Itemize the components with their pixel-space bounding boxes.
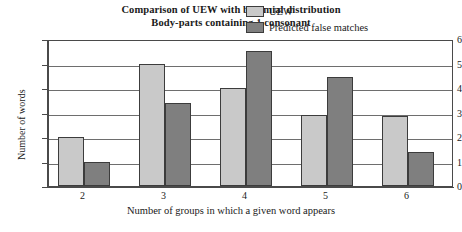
- legend-item-uew: UEW: [246, 4, 401, 19]
- bar: [220, 88, 246, 186]
- x-axis-tick-label: 6: [387, 190, 427, 202]
- bar: [58, 137, 84, 186]
- y-axis-title: Number of words: [16, 89, 27, 160]
- x-axis-tick-label: 5: [306, 190, 346, 202]
- bar: [84, 162, 110, 187]
- chart-legend: UEW Predicted false matches: [246, 4, 401, 36]
- x-axis-tick-label: 2: [63, 190, 103, 202]
- legend-swatch-icon-predicted: [246, 22, 264, 33]
- legend-item-predicted: Predicted false matches: [246, 20, 401, 35]
- bar: [382, 116, 408, 186]
- bar: [165, 103, 191, 186]
- legend-swatch-icon-uew: [246, 6, 264, 17]
- x-axis-tick-label: 3: [144, 190, 184, 202]
- bar: [246, 51, 272, 186]
- bar: [408, 152, 434, 186]
- bar: [139, 64, 165, 187]
- x-axis-tick-label: 4: [225, 190, 265, 202]
- x-axis-line: [47, 187, 454, 188]
- bar: [327, 77, 353, 186]
- x-axis-title: Number of groups in which a given word a…: [0, 205, 462, 216]
- plot-area: [48, 40, 453, 187]
- chart-container: Comparison of UEW with binomial distribu…: [0, 0, 462, 232]
- legend-label-uew: UEW: [269, 6, 293, 17]
- legend-label-predicted: Predicted false matches: [269, 22, 368, 33]
- bar: [301, 115, 327, 186]
